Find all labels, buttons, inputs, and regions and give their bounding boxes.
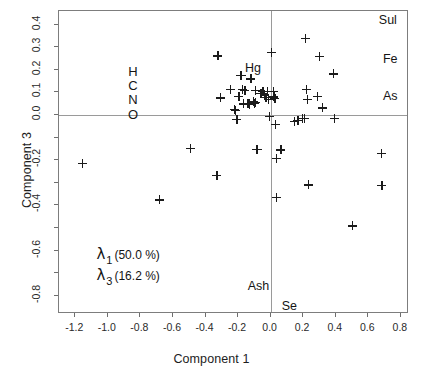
y-tick-label: -0.6 xyxy=(30,234,42,264)
data-point xyxy=(377,181,386,190)
data-point xyxy=(256,89,265,98)
data-point xyxy=(238,85,247,94)
data-point xyxy=(186,144,195,153)
data-point xyxy=(272,193,281,202)
data-point xyxy=(260,90,269,99)
x-tick-mark xyxy=(270,313,271,317)
variable-label-fe: Fe xyxy=(383,52,398,66)
x-tick-mark xyxy=(400,313,401,317)
data-point xyxy=(265,112,274,121)
x-tick-label: -1.2 xyxy=(65,321,83,333)
lambda-symbol: λ xyxy=(96,247,105,262)
data-point xyxy=(251,98,260,107)
data-point xyxy=(253,145,262,154)
data-point xyxy=(251,86,260,95)
data-point xyxy=(230,105,239,114)
variable-label-c: C xyxy=(128,77,137,92)
x-tick-mark xyxy=(107,313,108,317)
variable-label-hg: Hg xyxy=(245,61,261,75)
data-point xyxy=(78,159,87,168)
data-point xyxy=(213,51,222,60)
data-point xyxy=(155,195,164,204)
x-tick-mark xyxy=(335,313,336,317)
y-tick-label: 0.0 xyxy=(30,98,42,128)
data-point xyxy=(216,93,225,102)
horizontal-reference-line xyxy=(59,115,407,116)
data-point xyxy=(239,99,248,108)
x-tick-label: 0.2 xyxy=(295,321,310,333)
x-tick-mark xyxy=(205,313,206,317)
eigenvalue-row: λ3(16.2 %) xyxy=(96,268,159,289)
data-point xyxy=(226,85,235,94)
data-point xyxy=(348,221,357,230)
x-tick-mark xyxy=(302,313,303,317)
data-point xyxy=(261,93,270,102)
data-point xyxy=(313,92,322,101)
data-point xyxy=(245,100,254,109)
eigenvalue-row: λ1(50.0 %) xyxy=(96,247,159,268)
data-point xyxy=(234,92,243,101)
x-tick-mark xyxy=(367,313,368,317)
data-point xyxy=(249,97,258,106)
data-point xyxy=(212,171,221,180)
data-point xyxy=(304,180,313,189)
x-tick-mark xyxy=(172,313,173,317)
x-tick-mark xyxy=(237,313,238,317)
y-tick-label: -0.2 xyxy=(30,143,42,173)
plot-area: HCNOHgSulFeAsAshSe λ1(50.0 %)λ3(16.2 %) xyxy=(59,11,407,312)
data-point xyxy=(276,145,285,154)
x-tick-label: 0.8 xyxy=(393,321,408,333)
data-point xyxy=(236,71,245,80)
variable-label-as: As xyxy=(383,89,398,103)
variable-label-sul: Sul xyxy=(379,13,397,27)
data-point xyxy=(315,52,324,61)
x-tick-label: -1.0 xyxy=(98,321,116,333)
data-point xyxy=(231,106,240,115)
x-tick-mark xyxy=(74,313,75,317)
lambda-subscript: 3 xyxy=(106,275,112,287)
eigenvalue-legend: λ1(50.0 %)λ3(16.2 %) xyxy=(96,247,159,289)
data-point xyxy=(258,87,267,96)
variable-label-o: O xyxy=(128,106,138,121)
lambda-subscript: 1 xyxy=(106,254,112,266)
data-point xyxy=(318,103,327,112)
x-tick-label: 0.4 xyxy=(327,321,342,333)
y-tick-label: -0.4 xyxy=(30,188,42,218)
lambda-symbol: λ xyxy=(96,268,105,283)
data-point xyxy=(246,74,255,83)
data-point xyxy=(243,99,252,108)
x-tick-label: -0.6 xyxy=(163,321,181,333)
data-point xyxy=(244,99,253,108)
data-point xyxy=(271,120,280,129)
eigenvalue-percent: (16.2 %) xyxy=(114,269,159,283)
vertical-reference-line xyxy=(271,11,272,312)
data-point xyxy=(272,154,281,163)
x-tick-label: -0.8 xyxy=(130,321,148,333)
data-point xyxy=(252,145,261,154)
data-point xyxy=(240,86,249,95)
x-tick-mark xyxy=(139,313,140,317)
y-tick-label: -0.8 xyxy=(30,279,42,309)
x-tick-label: 0.0 xyxy=(262,321,277,333)
pca-scatter-figure: Component 3 Component 1 -1.2-1.0-0.8-0.6… xyxy=(0,0,423,372)
data-point xyxy=(264,95,273,104)
variable-label-ash: Ash xyxy=(248,279,270,293)
data-point xyxy=(270,94,279,103)
data-point xyxy=(377,149,386,158)
data-point xyxy=(301,34,310,43)
x-axis-title: Component 1 xyxy=(0,352,423,366)
data-point xyxy=(250,99,259,108)
x-tick-label: -0.2 xyxy=(228,321,246,333)
x-tick-label: -0.4 xyxy=(195,321,213,333)
data-point xyxy=(302,85,311,94)
data-point xyxy=(290,117,299,126)
data-point xyxy=(303,95,312,104)
data-point xyxy=(329,69,338,78)
x-tick-label: 0.6 xyxy=(360,321,375,333)
variable-label-se: Se xyxy=(282,299,297,312)
plot-frame: HCNOHgSulFeAsAshSe λ1(50.0 %)λ3(16.2 %) xyxy=(58,10,408,313)
data-point xyxy=(293,116,302,125)
variable-label-n: N xyxy=(128,92,137,107)
eigenvalue-percent: (50.0 %) xyxy=(114,248,159,262)
